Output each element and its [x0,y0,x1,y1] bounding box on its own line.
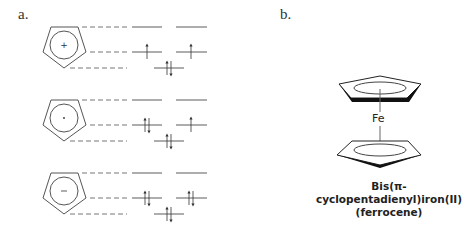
compound-caption: Bis(π-cyclopentadienyl)iron(II) (ferroce… [310,180,468,219]
caption-line-1: Bis(π-cyclopentadienyl)iron(II) [310,180,468,206]
ring-radical [43,100,207,148]
ring-anion [43,173,207,221]
ring-cation: + [43,27,207,75]
caption-line-2: (ferrocene) [310,206,468,219]
svg-text:+: + [60,40,68,50]
metal-label: Fe [372,112,385,125]
